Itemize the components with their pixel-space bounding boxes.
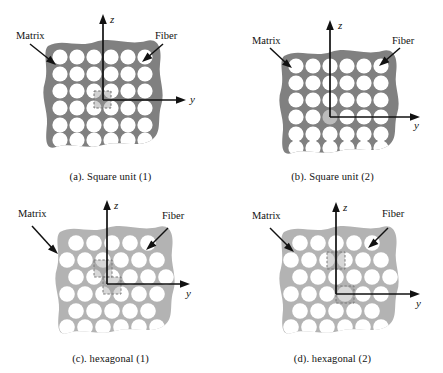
- panel-a-caption: (a). Square unit (1): [0, 171, 221, 182]
- matrix-label: Matrix: [252, 35, 281, 46]
- matrix-label: Matrix: [18, 208, 47, 219]
- panel-b-stage: Matrix Fiber z y: [222, 0, 443, 160]
- panel-a: Matrix Fiber z y (a). Square unit (1): [0, 0, 221, 186]
- fiber-label: Fiber: [155, 30, 177, 41]
- fiber-label: Fiber: [382, 208, 404, 219]
- axis-y-label: y: [190, 93, 195, 105]
- axis-y-label: y: [186, 287, 191, 299]
- panel-c-stage: Matrix Fiber z y: [0, 186, 221, 346]
- axis-z-label: z: [338, 19, 342, 31]
- axis-y-label: y: [414, 119, 419, 131]
- panel-d-stage: Matrix Fiber z y: [222, 186, 443, 346]
- panel-d: Matrix Fiber z y (d). hexagonal (2): [222, 186, 443, 372]
- fiber-label: Fiber: [392, 35, 414, 46]
- panel-b-caption: (b). Square unit (2): [222, 171, 443, 182]
- matrix-label: Matrix: [252, 210, 281, 221]
- fiber-label: Fiber: [162, 210, 184, 221]
- axis-z-label: z: [114, 199, 118, 211]
- panel-d-caption: (d). hexagonal (2): [222, 353, 443, 364]
- matrix-callout-arrow: [32, 226, 58, 254]
- composite-unit-cell-figure: Matrix Fiber z y (a). Square unit (1): [0, 0, 443, 373]
- axis-z-label: z: [343, 201, 347, 213]
- axis-y-label: y: [416, 297, 421, 309]
- panel-c: Matrix Fiber z y (c). hexagonal (1): [0, 186, 221, 372]
- matrix-label: Matrix: [16, 30, 45, 41]
- axis-z-label: z: [110, 13, 114, 25]
- panel-a-stage: Matrix Fiber z y: [0, 0, 221, 160]
- panel-c-caption: (c). hexagonal (1): [0, 353, 221, 364]
- panel-b: Matrix Fiber z y (b). Square unit (2): [222, 0, 443, 186]
- panel-b-drawing: [222, 0, 443, 160]
